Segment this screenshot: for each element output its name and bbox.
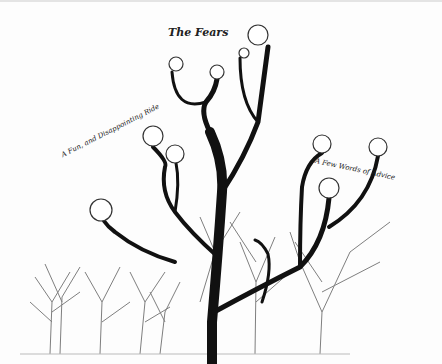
topic-node-9[interactable] — [369, 138, 387, 156]
prezi-canvas: The Fears A Fun, and Disappointing Ride … — [0, 0, 442, 364]
topic-node-8[interactable] — [313, 135, 331, 153]
topic-node-10[interactable] — [319, 178, 339, 198]
main-branches — [104, 47, 378, 364]
topic-node-1[interactable] — [248, 25, 268, 45]
topic-node-4[interactable] — [210, 65, 224, 79]
topic-node-3[interactable] — [169, 57, 183, 71]
topic-node-6[interactable] — [166, 145, 184, 163]
title-the-fears[interactable]: The Fears — [168, 26, 228, 39]
topic-node-7[interactable] — [90, 199, 112, 221]
tree-illustration — [0, 2, 442, 364]
topic-node-2[interactable] — [239, 48, 249, 58]
topic-nodes — [90, 25, 387, 221]
topic-node-5[interactable] — [143, 126, 163, 146]
